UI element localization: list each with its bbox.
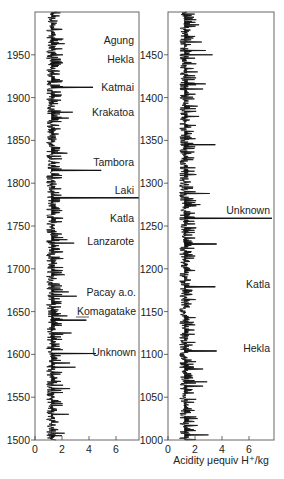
left-y-axis: 1500155016001650170017501800185019001950 <box>7 49 35 446</box>
x-axis-title: Acidity μequiv H⁺/kg <box>173 454 269 466</box>
ice-core-acidity-chart: 1500155016001650170017501800185019001950… <box>0 0 284 479</box>
y-tick-label: 1800 <box>7 177 31 189</box>
acidity-line <box>180 12 272 440</box>
label-katla-1179: Katla <box>246 278 270 290</box>
label-komagatake: Komagatake <box>77 305 136 317</box>
y-tick-label: 1700 <box>7 263 31 275</box>
y-tick-label: 1600 <box>7 348 31 360</box>
right-acidity-series <box>180 12 272 440</box>
y-tick-label: 1250 <box>140 220 164 232</box>
left-panel: 1500155016001650170017501800185019001950… <box>7 12 139 455</box>
y-tick-label: 1050 <box>140 391 164 403</box>
label-katla-1755: Katla <box>110 212 134 224</box>
y-tick-label: 1900 <box>7 92 31 104</box>
label-hekla-1104: Hekla <box>243 342 270 354</box>
right-x-axis: 0246 <box>165 436 252 455</box>
x-tick-label: 0 <box>32 443 38 455</box>
label-krakatoa: Krakatoa <box>92 106 134 118</box>
label-tambora: Tambora <box>93 156 134 168</box>
label-agung: Agung <box>104 34 135 46</box>
left-acidity-series <box>47 12 139 440</box>
label-laki: Laki <box>115 184 134 196</box>
y-tick-label: 1150 <box>140 306 163 318</box>
y-tick-label: 1400 <box>140 92 164 104</box>
label-hekla-1947: Hekla <box>107 53 134 65</box>
y-tick-label: 1450 <box>140 49 164 61</box>
y-tick-label: 1950 <box>7 49 31 61</box>
y-tick-label: 1500 <box>7 434 31 446</box>
label-katmai: Katmai <box>101 81 134 93</box>
left-x-axis: 0246 <box>32 436 119 455</box>
y-tick-label: 1300 <box>140 177 164 189</box>
y-tick-label: 1100 <box>140 348 163 360</box>
label-unknown-1259: Unknown <box>226 204 270 216</box>
x-tick-label: 6 <box>113 443 119 455</box>
right-panel: 1000105011001150120012501300135014001450… <box>140 12 274 466</box>
x-tick-label: 0 <box>165 443 171 455</box>
acidity-fill <box>51 12 139 440</box>
y-tick-label: 1750 <box>7 220 31 232</box>
acidity-fill <box>184 12 272 440</box>
y-tick-label: 1350 <box>140 134 164 146</box>
x-tick-label: 2 <box>59 443 65 455</box>
label-unknown-1601: Unknown <box>92 346 136 358</box>
y-tick-label: 1200 <box>140 263 164 275</box>
y-tick-label: 1850 <box>7 134 31 146</box>
label-lanzarote: Lanzarote <box>87 235 134 247</box>
y-tick-label: 1650 <box>7 306 31 318</box>
right-y-axis: 1000105011001150120012501300135014001450 <box>140 49 168 446</box>
y-tick-label: 1000 <box>140 434 164 446</box>
label-pacay: Pacay a.o. <box>86 286 136 298</box>
x-tick-label: 4 <box>86 443 92 455</box>
y-tick-label: 1550 <box>7 391 31 403</box>
acidity-line <box>47 12 139 440</box>
